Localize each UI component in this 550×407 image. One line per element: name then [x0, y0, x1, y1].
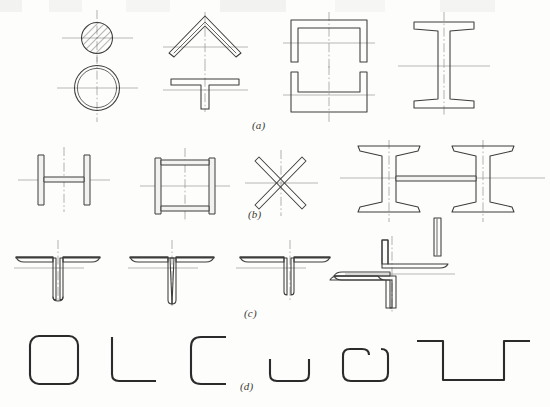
cross-bar-x: [245, 150, 318, 216]
angle-cold-formed: [112, 337, 156, 381]
row-label-d: (d): [240, 380, 253, 392]
twin-i-beam-section: [340, 140, 545, 256]
welded-box-section: [140, 148, 230, 222]
channel-pair-web: [283, 66, 375, 122]
i-beam-section: [398, 12, 490, 115]
double-angle-tee-back-to-back: [14, 240, 100, 302]
double-angle-tee-spaced: [236, 240, 330, 300]
angle-inverted-v: [163, 12, 248, 62]
welded-h-plate-section: [18, 147, 110, 212]
row-c-group: [14, 236, 455, 312]
channel-cold-formed-narrow: [270, 359, 309, 381]
structural-sections-figure: .ol{fill:none;stroke:#3c3c3c;stroke-widt…: [0, 0, 550, 407]
round-bar-solid: [62, 10, 133, 62]
channel-cold-formed-wide: [191, 337, 226, 384]
square-hollow-section: [30, 336, 78, 384]
row-label-a: (a): [252, 119, 265, 131]
row-label-c: (c): [244, 307, 257, 319]
row-label-b: (b): [248, 208, 261, 220]
angle-pair-offset: [330, 236, 455, 312]
double-angle-tee-closed: [128, 240, 214, 306]
channel-section-inverted: [283, 12, 375, 70]
channel-cold-formed-lipped: [343, 349, 388, 381]
hat-section: [417, 341, 530, 380]
row-b-group: [18, 140, 545, 256]
row-d-group: [30, 336, 530, 384]
row-a-group: [57, 10, 490, 122]
tee-section: [163, 62, 248, 112]
round-tube: [57, 55, 138, 122]
